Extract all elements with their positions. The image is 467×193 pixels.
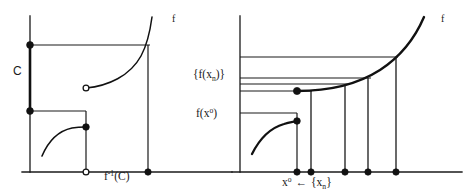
left-small-curve bbox=[42, 127, 86, 156]
left-function-label: f bbox=[172, 13, 176, 24]
image-sequence-label: {f(xn)} bbox=[193, 68, 225, 83]
right-panel-group: f {f(xn)} f(xo) xo←{xn} bbox=[193, 13, 462, 191]
right-small-curve bbox=[252, 121, 297, 154]
preimage-axis-label: f-1(C) bbox=[104, 169, 130, 183]
sequence-axis-label: xo←{xn} bbox=[282, 175, 332, 191]
preimage-right-filled-dot bbox=[145, 169, 151, 175]
left-curve-open-start-dot bbox=[83, 85, 89, 91]
x-axis-dot-1 bbox=[308, 169, 314, 175]
left-panel-group: C f f-1(C) bbox=[13, 13, 232, 183]
x-axis-dot-2 bbox=[342, 169, 348, 175]
x-axis-dot-4 bbox=[393, 169, 399, 175]
image-point-label: f(xo) bbox=[196, 106, 217, 120]
right-small-curve-end-dot bbox=[294, 118, 301, 125]
right-function-curve bbox=[297, 17, 424, 91]
left-small-curve-end-dot bbox=[83, 124, 90, 131]
figure-root: C f f-1(C) bbox=[0, 0, 467, 193]
set-c-label: C bbox=[13, 64, 22, 78]
fx0-point-dot bbox=[293, 87, 300, 94]
c-lower-endpoint-dot bbox=[27, 108, 34, 115]
c-upper-endpoint-dot bbox=[27, 42, 34, 49]
preimage-left-open-dot bbox=[83, 169, 89, 175]
left-function-curve bbox=[86, 17, 152, 88]
x-axis-dot-x0 bbox=[294, 169, 300, 175]
x-axis-dot-3 bbox=[365, 169, 371, 175]
right-function-label: f bbox=[441, 13, 445, 24]
math-figure-svg: C f f-1(C) bbox=[0, 0, 467, 193]
